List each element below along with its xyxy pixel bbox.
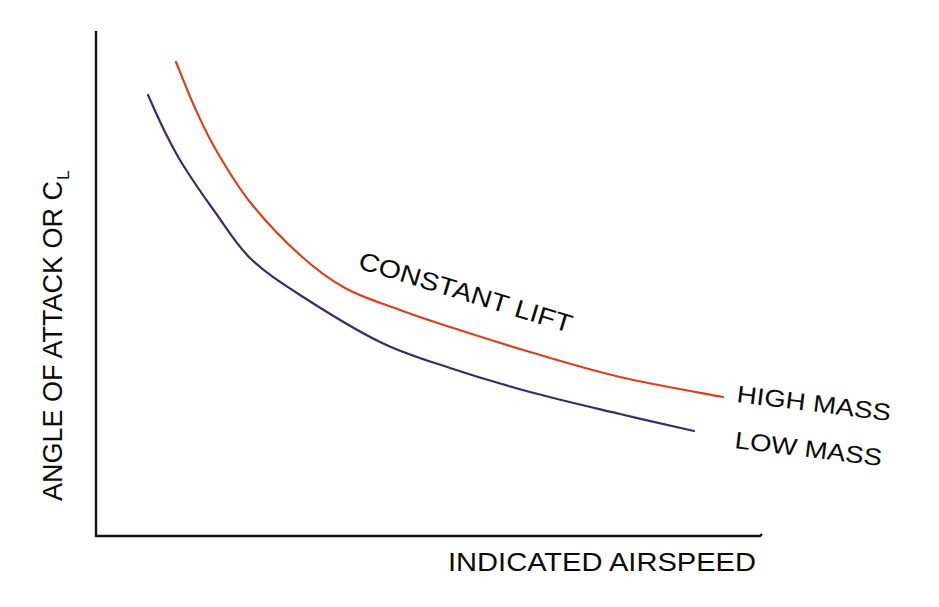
constant-lift-annotation: CONSTANT LIFT: [356, 246, 576, 338]
high-mass-curve: [176, 62, 723, 397]
low-mass-label: LOW MASS: [733, 426, 883, 471]
aoa-vs-airspeed-diagram: ANGLE OF ATTACK OR CL INDICATED AIRSPEED…: [0, 0, 939, 607]
y-axis-label-subscript: L: [54, 170, 73, 179]
high-mass-label: HIGH MASS: [735, 380, 892, 426]
y-axis-label: ANGLE OF ATTACK OR CL: [38, 170, 73, 501]
y-axis-label-main: ANGLE OF ATTACK OR C: [38, 181, 68, 501]
x-axis-label: INDICATED AIRSPEED: [448, 547, 756, 577]
